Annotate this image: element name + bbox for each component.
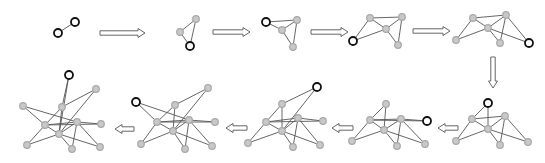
arrow-down-icon bbox=[489, 57, 498, 88]
diagram-canvas bbox=[0, 0, 545, 163]
existing-node bbox=[503, 12, 510, 19]
new-node bbox=[313, 83, 321, 91]
existing-node bbox=[24, 142, 31, 149]
existing-node bbox=[395, 42, 402, 49]
existing-node bbox=[212, 119, 219, 126]
graph-edge bbox=[173, 131, 212, 146]
existing-node bbox=[525, 139, 532, 146]
arrow-left-icon bbox=[226, 124, 247, 133]
graph-step-6 bbox=[453, 99, 532, 148]
existing-node bbox=[42, 122, 49, 129]
existing-node bbox=[394, 143, 401, 150]
existing-node bbox=[93, 86, 100, 93]
graph-edge bbox=[397, 119, 401, 146]
existing-node bbox=[470, 15, 477, 22]
arrow-right-icon bbox=[100, 29, 145, 38]
existing-node bbox=[497, 142, 504, 149]
network-growth-diagram bbox=[0, 0, 545, 163]
graph-step-7 bbox=[349, 101, 431, 150]
existing-node bbox=[177, 29, 184, 36]
new-node bbox=[54, 29, 62, 37]
existing-node bbox=[69, 146, 76, 153]
existing-node bbox=[453, 37, 460, 44]
graph-step-3 bbox=[262, 17, 300, 51]
existing-node bbox=[193, 16, 200, 23]
new-node bbox=[525, 39, 533, 47]
graph-edge bbox=[398, 17, 402, 45]
existing-node bbox=[172, 102, 179, 109]
existing-node bbox=[56, 131, 63, 138]
graph-edge bbox=[173, 105, 175, 131]
graph-step-8 bbox=[245, 83, 327, 150]
graph-step-4 bbox=[349, 14, 405, 49]
graph-edge bbox=[370, 17, 402, 18]
existing-node bbox=[349, 138, 356, 145]
existing-node bbox=[97, 144, 104, 151]
new-node bbox=[71, 18, 79, 26]
graph-edge bbox=[282, 87, 317, 104]
existing-node bbox=[154, 119, 161, 126]
existing-node bbox=[74, 119, 81, 126]
new-node bbox=[349, 37, 357, 45]
existing-node bbox=[485, 25, 492, 32]
new-node bbox=[484, 99, 492, 107]
graph-step-1 bbox=[54, 18, 79, 37]
graph-edge bbox=[282, 87, 317, 131]
existing-node bbox=[399, 14, 406, 21]
existing-node bbox=[367, 15, 374, 22]
graph-edge bbox=[293, 118, 298, 147]
new-node bbox=[262, 18, 270, 26]
existing-node bbox=[290, 144, 297, 151]
graph-step-10 bbox=[20, 71, 105, 152]
existing-node bbox=[502, 113, 509, 120]
graph-step-9 bbox=[132, 85, 218, 153]
existing-node bbox=[186, 117, 193, 124]
new-node bbox=[186, 42, 194, 50]
existing-node bbox=[367, 117, 374, 124]
graph-edge bbox=[175, 88, 208, 105]
graph-edge bbox=[293, 20, 297, 47]
graph-edge bbox=[500, 116, 505, 145]
graph-edge bbox=[189, 120, 212, 146]
existing-node bbox=[497, 40, 504, 47]
graph-edge bbox=[473, 15, 506, 18]
existing-node bbox=[383, 101, 390, 108]
existing-node bbox=[205, 85, 212, 92]
existing-node bbox=[59, 104, 66, 111]
existing-node bbox=[383, 26, 390, 33]
graph-edge bbox=[62, 89, 96, 107]
graph-step-5 bbox=[453, 12, 533, 47]
existing-node bbox=[485, 126, 492, 133]
graph-edge bbox=[185, 120, 189, 149]
graph-edge bbox=[173, 88, 208, 131]
arrow-right-icon bbox=[311, 28, 348, 37]
arrow-left-icon bbox=[332, 124, 353, 133]
new-node bbox=[132, 98, 140, 106]
existing-node bbox=[279, 128, 286, 135]
existing-node bbox=[381, 127, 388, 134]
existing-node bbox=[398, 116, 405, 123]
existing-node bbox=[98, 121, 105, 128]
new-node bbox=[423, 117, 431, 125]
new-node bbox=[65, 71, 73, 79]
existing-node bbox=[422, 141, 429, 148]
existing-node bbox=[290, 44, 297, 51]
existing-node bbox=[263, 119, 270, 126]
arrow-left-icon bbox=[115, 125, 134, 134]
existing-node bbox=[469, 116, 476, 123]
graph-edge bbox=[72, 122, 77, 149]
existing-node bbox=[182, 146, 189, 153]
existing-node bbox=[320, 118, 327, 125]
graphs-layer bbox=[20, 12, 533, 153]
existing-node bbox=[245, 140, 252, 147]
arrow-right-icon bbox=[213, 28, 250, 37]
existing-node bbox=[294, 17, 301, 24]
existing-node bbox=[20, 103, 27, 110]
arrow-right-icon bbox=[413, 27, 450, 36]
graph-edge bbox=[384, 104, 386, 130]
existing-node bbox=[279, 101, 286, 108]
existing-node bbox=[138, 141, 145, 148]
graph-step-2 bbox=[177, 16, 200, 50]
arrow-left-icon bbox=[438, 124, 458, 133]
existing-node bbox=[170, 128, 177, 135]
